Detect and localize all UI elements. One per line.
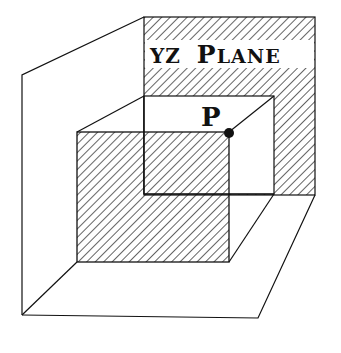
yz-plane-diagram: P YZ PLANE <box>0 0 341 353</box>
point-p <box>224 128 234 138</box>
point-label: P <box>201 102 221 132</box>
front-face <box>77 132 229 262</box>
plane-label: YZ PLANE <box>149 40 281 69</box>
